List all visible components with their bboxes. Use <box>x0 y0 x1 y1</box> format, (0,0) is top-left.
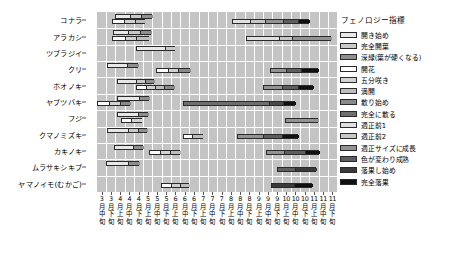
phenology-segment <box>172 184 181 187</box>
phenology-bar <box>136 46 176 51</box>
phenology-segment <box>116 15 131 18</box>
legend-swatch <box>340 99 357 105</box>
legend-swatch <box>340 156 357 162</box>
phenology-segment <box>296 168 316 171</box>
phenology-segment <box>233 20 251 23</box>
y-axis-tick <box>82 183 86 184</box>
phenology-bar <box>156 68 190 73</box>
plot-area <box>97 12 337 192</box>
phenology-segment <box>272 184 295 187</box>
phenology-segment <box>295 184 313 187</box>
phenology-segment <box>118 80 136 83</box>
phenology-bar <box>107 63 137 68</box>
phenology-segment <box>238 135 264 138</box>
vertical-gridline <box>171 12 172 192</box>
phenology-segment <box>302 69 319 72</box>
y-axis-label: コナラ <box>60 15 82 25</box>
legend-swatch <box>340 54 357 60</box>
legend-label: 満開 <box>361 86 375 96</box>
legend-swatch <box>340 43 357 49</box>
x-axis-label: 4月上旬 <box>117 196 123 226</box>
y-axis-label: クマノミズキ <box>39 130 82 140</box>
phenology-segment <box>299 86 314 89</box>
phenology-segment <box>284 102 297 105</box>
y-axis-tick <box>82 85 86 86</box>
phenology-segment <box>141 31 152 34</box>
phenology-bar <box>117 112 147 117</box>
x-axis: 3月中旬3月下旬4月上旬4月中旬4月下旬5月上旬5月中旬5月下旬6月上旬6月中旬… <box>97 192 337 250</box>
y-axis-tick <box>82 167 86 168</box>
x-axis-label: 9月中旬 <box>265 196 271 226</box>
phenology-segment <box>113 20 125 23</box>
phenology-bar <box>97 101 130 106</box>
phenology-segment <box>137 86 147 89</box>
phenology-bar <box>114 145 144 150</box>
x-axis-label: 10月中旬 <box>292 196 299 226</box>
phenology-segment <box>129 31 141 34</box>
phenology-segment <box>179 69 191 72</box>
x-axis-label: 10月上旬 <box>283 196 290 226</box>
phenology-bar <box>266 150 320 155</box>
phenology-segment <box>266 20 284 23</box>
phenology-bar <box>117 96 148 101</box>
phenology-segment <box>184 102 270 105</box>
x-axis-label: 5月上旬 <box>145 196 151 226</box>
legend-swatch <box>340 167 357 173</box>
y-axis-label: ヤブツバキ <box>46 97 82 107</box>
x-axis-label: 4月下旬 <box>136 196 142 226</box>
y-axis-label: フジ <box>68 113 82 123</box>
legend-label: 適正前1 <box>361 120 386 130</box>
phenology-segment <box>146 80 155 83</box>
phenology-segment <box>251 20 266 23</box>
phenology-segment <box>150 151 161 154</box>
phenology-segment <box>283 135 300 138</box>
phenology-segment <box>139 113 149 116</box>
vertical-gridline <box>162 12 163 192</box>
phenology-bar <box>161 183 190 188</box>
legend-swatch <box>340 77 357 83</box>
phenology-bar <box>270 68 318 73</box>
legend-label: 散り始め <box>361 97 389 107</box>
x-axis-label: 9月上旬 <box>256 196 262 226</box>
x-axis-label: 6月上旬 <box>172 196 178 226</box>
phenology-segment <box>132 119 143 122</box>
phenology-bar <box>106 161 138 166</box>
phenology-segment <box>286 119 318 122</box>
legend-swatch <box>340 145 357 151</box>
y-axis-tick <box>82 52 86 53</box>
legend-swatch <box>340 122 357 128</box>
phenology-segment <box>131 15 142 18</box>
phenology-segment <box>169 69 179 72</box>
phenology-segment <box>181 184 190 187</box>
legend-entry: 五分咲き <box>340 74 448 85</box>
phenology-segment <box>107 162 129 165</box>
y-axis-tick <box>82 118 86 119</box>
phenology-bar <box>183 101 296 106</box>
legend: フェノロジー指標 開き始め完全開葉深緑(葉が硬くなる)開花五分咲き満開散り始め完… <box>340 14 448 194</box>
legend-label: 適正サイズに成長 <box>361 143 416 153</box>
legend-swatch <box>340 32 357 38</box>
phenology-segment <box>271 69 288 72</box>
phenology-bar <box>277 167 316 172</box>
phenology-segment <box>118 113 138 116</box>
phenology-segment <box>280 37 293 40</box>
legend-entry: 完全に散る <box>340 108 448 119</box>
phenology-bar <box>107 128 147 133</box>
legend-entry: 適正サイズに成長 <box>340 142 448 153</box>
legend-entry: 色が変わり成熟 <box>340 153 448 164</box>
phenology-bar <box>115 14 152 19</box>
phenology-bar <box>117 79 154 84</box>
phenology-bar <box>112 19 145 24</box>
y-axis-label: ヤマノイモ(むかご) <box>18 179 82 189</box>
phenology-segment <box>129 129 138 132</box>
phenology-bar <box>271 183 313 188</box>
phenology-segment <box>139 129 148 132</box>
legend-title: フェノロジー指標 <box>341 14 448 25</box>
phenology-bar <box>149 150 180 155</box>
phenology-segment <box>156 86 165 89</box>
phenology-segment <box>287 69 302 72</box>
horizontal-gridline <box>97 176 337 177</box>
phenology-bar <box>112 36 149 41</box>
x-axis-label: 6月中旬 <box>182 196 188 226</box>
legend-entry: 満開 <box>340 85 448 96</box>
